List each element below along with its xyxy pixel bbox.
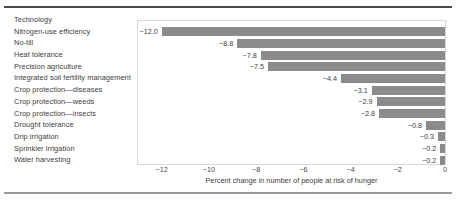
bar-value-label: −12.0 bbox=[139, 26, 157, 38]
bar-value-label: −0.2 bbox=[422, 143, 436, 155]
bar bbox=[438, 132, 445, 141]
category-column-header: Technology bbox=[14, 14, 138, 26]
category-label: Heat tolerance bbox=[14, 49, 138, 61]
bar bbox=[440, 156, 445, 165]
bar-row: −2.9 bbox=[138, 96, 445, 108]
bar-value-label: −4.4 bbox=[323, 73, 337, 85]
bar-row: −0.2 bbox=[138, 143, 445, 155]
bar bbox=[426, 121, 445, 130]
bar-row: −7.5 bbox=[138, 61, 445, 73]
bar-row: −12.0 bbox=[138, 26, 445, 38]
bar-value-label: −2.8 bbox=[361, 108, 375, 120]
bar bbox=[379, 109, 445, 118]
bar bbox=[268, 62, 445, 71]
bar bbox=[377, 97, 445, 106]
category-label-column: Technology Nitrogen-use efficiency No-ti… bbox=[14, 14, 138, 166]
category-label: Water harvesting bbox=[14, 154, 138, 166]
bar-row: −0.8 bbox=[138, 120, 445, 132]
category-label: Nitrogen-use efficiency bbox=[14, 26, 138, 38]
x-axis-tick-label: −12 bbox=[156, 165, 168, 174]
bar bbox=[162, 27, 445, 36]
bar-value-label: −0.8 bbox=[408, 120, 422, 132]
bar bbox=[372, 86, 445, 95]
figure: Technology Nitrogen-use efficiency No-ti… bbox=[0, 0, 456, 203]
bar-rows: −12.0−8.8−7.8−7.5−4.4−3.1−2.9−2.8−0.8−0.… bbox=[138, 26, 445, 166]
bar-row: −8.8 bbox=[138, 38, 445, 50]
category-label: Crop protection—insects bbox=[14, 108, 138, 120]
bar bbox=[237, 39, 445, 48]
bar-value-label: −2.9 bbox=[358, 96, 372, 108]
bar-row: −3.1 bbox=[138, 85, 445, 97]
bar bbox=[261, 51, 445, 60]
category-label: Crop protection—weeds bbox=[14, 96, 138, 108]
category-label: Drip irrigation bbox=[14, 131, 138, 143]
category-label: Precision agriculture bbox=[14, 61, 138, 73]
bar-row: −0.3 bbox=[138, 131, 445, 143]
x-axis-tick-label: −10 bbox=[203, 165, 215, 174]
x-axis-tick-label: −2 bbox=[394, 165, 402, 174]
x-axis-tick-label: 0 bbox=[443, 165, 447, 174]
category-label: Sprinkler irrigation bbox=[14, 143, 138, 155]
top-rule bbox=[4, 6, 452, 8]
bar-row: −7.8 bbox=[138, 50, 445, 62]
bar-value-label: −0.3 bbox=[420, 131, 434, 143]
category-label: No-till bbox=[14, 37, 138, 49]
x-axis: Percent change in number of people at ri… bbox=[137, 165, 446, 193]
x-axis-title: Percent change in number of people at ri… bbox=[137, 176, 446, 185]
bar-value-label: −8.8 bbox=[219, 38, 233, 50]
category-label: Drought tolerance bbox=[14, 119, 138, 131]
bar-row: −4.4 bbox=[138, 73, 445, 85]
bar bbox=[440, 144, 445, 153]
category-label: Crop protection—diseases bbox=[14, 84, 138, 96]
bar-value-label: −3.1 bbox=[354, 85, 368, 97]
category-label: Integrated soil fertility management bbox=[14, 72, 138, 84]
plot-area: −12.0−8.8−7.8−7.5−4.4−3.1−2.9−2.8−0.8−0.… bbox=[137, 20, 446, 165]
bar bbox=[341, 74, 445, 83]
bar-value-label: −7.5 bbox=[250, 61, 264, 73]
bottom-rule bbox=[4, 192, 452, 194]
x-axis-tick-label: −4 bbox=[346, 165, 354, 174]
x-axis-tick-label: −6 bbox=[299, 165, 307, 174]
bar-value-label: −7.8 bbox=[243, 50, 257, 62]
x-axis-tick-label: −8 bbox=[252, 165, 260, 174]
bar-row: −2.8 bbox=[138, 108, 445, 120]
